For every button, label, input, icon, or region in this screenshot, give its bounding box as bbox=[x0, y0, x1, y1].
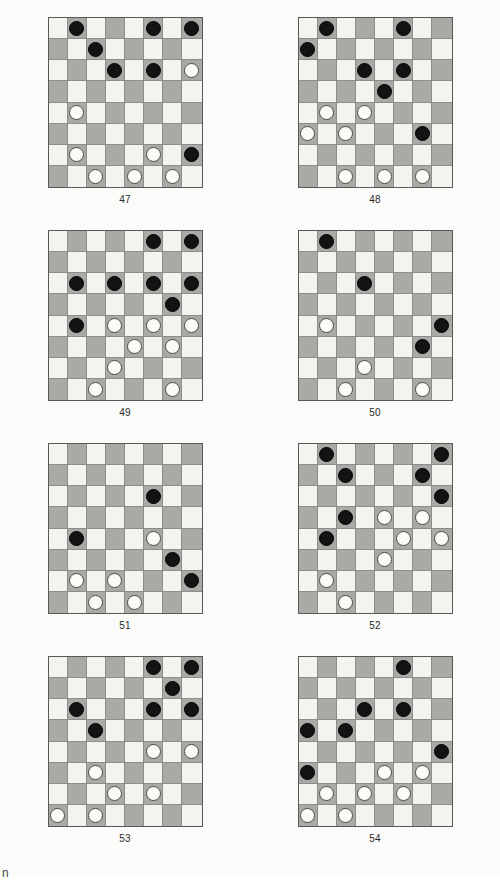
square-r2-c2[interactable] bbox=[337, 699, 356, 720]
square-r6-c3[interactable] bbox=[356, 571, 375, 592]
square-r1-c2[interactable] bbox=[337, 465, 356, 486]
white-checker-piece[interactable] bbox=[396, 786, 411, 801]
square-r0-c1[interactable] bbox=[68, 444, 87, 465]
square-r3-c5[interactable] bbox=[144, 294, 163, 315]
black-checker-piece[interactable] bbox=[434, 744, 449, 759]
square-r2-c5[interactable] bbox=[394, 699, 413, 720]
square-r4-c5[interactable] bbox=[144, 529, 163, 550]
square-r1-c4[interactable] bbox=[125, 39, 144, 60]
square-r5-c6[interactable] bbox=[413, 550, 432, 571]
square-r5-c6[interactable] bbox=[413, 124, 432, 145]
square-r0-c2[interactable] bbox=[337, 657, 356, 678]
square-r6-c1[interactable] bbox=[68, 358, 87, 379]
square-r7-c0[interactable] bbox=[49, 592, 68, 613]
white-checker-piece[interactable] bbox=[88, 169, 103, 184]
square-r0-c1[interactable] bbox=[68, 18, 87, 39]
square-r6-c0[interactable] bbox=[299, 358, 318, 379]
square-r2-c6[interactable] bbox=[163, 486, 182, 507]
square-r6-c6[interactable] bbox=[163, 784, 182, 805]
square-r1-c3[interactable] bbox=[106, 39, 125, 60]
square-r2-c6[interactable] bbox=[163, 273, 182, 294]
square-r5-c7[interactable] bbox=[182, 550, 201, 571]
square-r3-c0[interactable] bbox=[49, 720, 68, 741]
black-checker-piece[interactable] bbox=[165, 681, 180, 696]
white-checker-piece[interactable] bbox=[146, 318, 161, 333]
black-checker-piece[interactable] bbox=[69, 276, 84, 291]
square-r3-c4[interactable] bbox=[125, 507, 144, 528]
square-r6-c4[interactable] bbox=[125, 784, 144, 805]
square-r0-c7[interactable] bbox=[432, 444, 451, 465]
square-r0-c0[interactable] bbox=[299, 231, 318, 252]
white-checker-piece[interactable] bbox=[184, 744, 199, 759]
square-r6-c0[interactable] bbox=[299, 145, 318, 166]
square-r7-c6[interactable] bbox=[413, 805, 432, 826]
square-r0-c2[interactable] bbox=[87, 18, 106, 39]
square-r7-c6[interactable] bbox=[163, 166, 182, 187]
square-r0-c6[interactable] bbox=[163, 18, 182, 39]
black-checker-piece[interactable] bbox=[184, 21, 199, 36]
square-r6-c5[interactable] bbox=[144, 784, 163, 805]
square-r3-c1[interactable] bbox=[68, 720, 87, 741]
square-r7-c4[interactable] bbox=[125, 592, 144, 613]
square-r7-c2[interactable] bbox=[87, 592, 106, 613]
square-r4-c4[interactable] bbox=[375, 103, 394, 124]
white-checker-piece[interactable] bbox=[127, 169, 142, 184]
black-checker-piece[interactable] bbox=[184, 234, 199, 249]
square-r1-c4[interactable] bbox=[375, 39, 394, 60]
square-r1-c3[interactable] bbox=[356, 678, 375, 699]
square-r2-c6[interactable] bbox=[413, 486, 432, 507]
square-r4-c1[interactable] bbox=[318, 316, 337, 337]
square-r1-c4[interactable] bbox=[125, 465, 144, 486]
white-checker-piece[interactable] bbox=[107, 360, 122, 375]
square-r7-c0[interactable] bbox=[299, 166, 318, 187]
square-r3-c2[interactable] bbox=[337, 720, 356, 741]
square-r0-c6[interactable] bbox=[413, 444, 432, 465]
square-r0-c0[interactable] bbox=[49, 18, 68, 39]
square-r4-c6[interactable] bbox=[163, 316, 182, 337]
square-r0-c3[interactable] bbox=[356, 18, 375, 39]
square-r4-c4[interactable] bbox=[125, 103, 144, 124]
square-r3-c3[interactable] bbox=[106, 720, 125, 741]
checkerboard-54[interactable] bbox=[298, 656, 453, 827]
square-r7-c7[interactable] bbox=[182, 166, 201, 187]
square-r4-c3[interactable] bbox=[356, 742, 375, 763]
square-r7-c3[interactable] bbox=[106, 379, 125, 400]
square-r1-c0[interactable] bbox=[49, 252, 68, 273]
square-r7-c7[interactable] bbox=[182, 379, 201, 400]
square-r4-c7[interactable] bbox=[182, 103, 201, 124]
square-r1-c2[interactable] bbox=[87, 465, 106, 486]
square-r2-c4[interactable] bbox=[375, 60, 394, 81]
square-r7-c2[interactable] bbox=[337, 166, 356, 187]
square-r6-c6[interactable] bbox=[163, 571, 182, 592]
square-r4-c2[interactable] bbox=[337, 742, 356, 763]
square-r6-c1[interactable] bbox=[68, 145, 87, 166]
square-r6-c3[interactable] bbox=[356, 358, 375, 379]
square-r1-c5[interactable] bbox=[394, 252, 413, 273]
square-r3-c7[interactable] bbox=[182, 720, 201, 741]
white-checker-piece[interactable] bbox=[319, 318, 334, 333]
square-r1-c7[interactable] bbox=[432, 678, 451, 699]
square-r7-c6[interactable] bbox=[163, 805, 182, 826]
square-r2-c2[interactable] bbox=[337, 273, 356, 294]
square-r7-c1[interactable] bbox=[318, 805, 337, 826]
square-r6-c4[interactable] bbox=[375, 784, 394, 805]
square-r5-c4[interactable] bbox=[375, 763, 394, 784]
square-r5-c3[interactable] bbox=[106, 124, 125, 145]
square-r2-c5[interactable] bbox=[144, 273, 163, 294]
square-r6-c7[interactable] bbox=[432, 358, 451, 379]
white-checker-piece[interactable] bbox=[377, 169, 392, 184]
square-r6-c6[interactable] bbox=[163, 145, 182, 166]
square-r0-c1[interactable] bbox=[68, 657, 87, 678]
square-r0-c5[interactable] bbox=[394, 657, 413, 678]
square-r1-c6[interactable] bbox=[163, 252, 182, 273]
square-r0-c3[interactable] bbox=[356, 444, 375, 465]
square-r6-c5[interactable] bbox=[144, 571, 163, 592]
square-r1-c0[interactable] bbox=[49, 39, 68, 60]
square-r7-c5[interactable] bbox=[394, 592, 413, 613]
square-r6-c3[interactable] bbox=[356, 145, 375, 166]
square-r6-c2[interactable] bbox=[337, 784, 356, 805]
square-r3-c6[interactable] bbox=[163, 720, 182, 741]
square-r1-c5[interactable] bbox=[144, 39, 163, 60]
square-r4-c5[interactable] bbox=[394, 529, 413, 550]
square-r4-c7[interactable] bbox=[182, 529, 201, 550]
